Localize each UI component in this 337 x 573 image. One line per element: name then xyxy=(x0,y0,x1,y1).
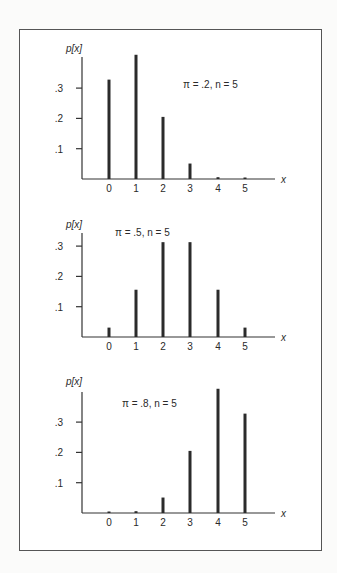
y-axis-label: p[x] xyxy=(65,43,82,54)
bar-1 xyxy=(135,55,138,179)
x-tick-label: 1 xyxy=(133,183,139,194)
x-axis-label: x xyxy=(280,332,287,343)
bar-2 xyxy=(162,498,165,513)
x-tick-label: 2 xyxy=(160,517,166,528)
y-tick-label: .1 xyxy=(55,144,64,155)
y-axis-label: p[x] xyxy=(65,376,82,387)
x-tick-label: 2 xyxy=(160,183,166,194)
bar-4 xyxy=(217,177,220,179)
x-tick-label: 4 xyxy=(215,517,221,528)
y-tick-label: .2 xyxy=(55,447,64,458)
x-tick-label: 4 xyxy=(215,341,221,352)
bar-5 xyxy=(244,414,247,513)
y-tick-label: .1 xyxy=(55,302,64,313)
x-tick-label: 1 xyxy=(133,341,139,352)
bar-3 xyxy=(189,164,192,179)
y-tick-label: .3 xyxy=(55,83,64,94)
x-tick-label: 0 xyxy=(106,341,112,352)
y-tick-label: .3 xyxy=(55,417,64,428)
bar-0 xyxy=(108,80,111,179)
x-tick-label: 2 xyxy=(160,341,166,352)
bar-3 xyxy=(189,451,192,513)
bar-2 xyxy=(162,117,165,179)
binomial-charts: p[x]x.1.2.3012345π = .2, n = 5p[x]x.1.2.… xyxy=(0,0,337,573)
bar-4 xyxy=(217,389,220,513)
parameter-annotation: π = .5, n = 5 xyxy=(115,227,170,238)
y-tick-label: .2 xyxy=(55,113,64,124)
y-tick-label: .2 xyxy=(55,271,64,282)
x-tick-label: 5 xyxy=(242,183,248,194)
bar-0 xyxy=(108,328,111,337)
x-tick-label: 5 xyxy=(242,341,248,352)
x-tick-label: 4 xyxy=(215,183,221,194)
y-tick-label: .3 xyxy=(55,241,64,252)
x-tick-label: 1 xyxy=(133,517,139,528)
bar-3 xyxy=(189,242,192,337)
bar-5 xyxy=(244,328,247,337)
x-axis-label: x xyxy=(280,174,287,185)
bar-1 xyxy=(135,290,138,337)
bar-5 xyxy=(244,178,247,180)
x-tick-label: 5 xyxy=(242,517,248,528)
x-tick-label: 3 xyxy=(187,517,193,528)
x-tick-label: 0 xyxy=(106,183,112,194)
bar-0 xyxy=(108,512,111,514)
y-axis-label: p[x] xyxy=(65,219,82,230)
bar-1 xyxy=(135,511,138,513)
x-tick-label: 0 xyxy=(106,517,112,528)
bar-4 xyxy=(217,290,220,337)
parameter-annotation: π = .8, n = 5 xyxy=(122,398,177,409)
parameter-annotation: π = .2, n = 5 xyxy=(183,79,238,90)
y-tick-label: .1 xyxy=(55,478,64,489)
bar-2 xyxy=(162,242,165,337)
x-axis-label: x xyxy=(280,508,287,519)
x-tick-label: 3 xyxy=(187,341,193,352)
x-tick-label: 3 xyxy=(187,183,193,194)
